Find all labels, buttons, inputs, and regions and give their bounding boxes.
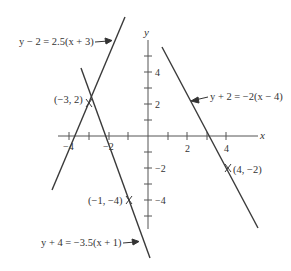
point-slope-graph: x y −4 −2 2 4 4 2 −2 −4 (−3, 2) (−1, −4)… — [0, 0, 291, 271]
y-tick-label: −2 — [155, 163, 166, 174]
point-label-4-neg2: (4, −2) — [233, 164, 262, 176]
y-axis-label: y — [143, 26, 149, 38]
x-tick-label: 2 — [185, 143, 190, 154]
point-marker-neg1-neg4 — [126, 196, 132, 204]
equation-label-2: y + 4 = −3.5(x + 1) — [41, 237, 122, 249]
x-axis-label: x — [259, 129, 265, 141]
equation-label-3: y + 2 = −2(x − 4) — [210, 91, 283, 103]
arrow-icon — [123, 239, 139, 245]
x-tick-label: 4 — [224, 143, 229, 154]
point-label-neg1-neg4: (−1, −4) — [88, 195, 123, 207]
arrow-icon — [95, 38, 112, 44]
y-tick-label: −4 — [155, 195, 166, 206]
line-slope-neg2 — [162, 47, 258, 228]
point-label-neg3-2: (−3, 2) — [54, 94, 83, 106]
equation-label-1: y − 2 = 2.5(x + 3) — [19, 36, 94, 48]
y-tick-label: 2 — [155, 99, 160, 110]
arrow-icon — [191, 97, 208, 103]
line-slope-neg3.5 — [81, 68, 150, 258]
point-marker-neg3-2 — [86, 99, 92, 107]
y-tick-label: 4 — [155, 67, 160, 78]
